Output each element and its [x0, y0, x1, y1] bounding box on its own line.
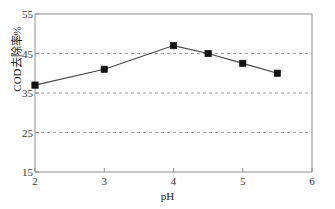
data-series-markers: [32, 42, 281, 88]
data-point-marker: [32, 82, 38, 88]
data-point-marker: [205, 50, 211, 56]
data-point-marker: [170, 42, 176, 48]
grid-lines: [35, 54, 312, 133]
chart-figure: COD去除率% 1525354555 23456 pH: [0, 0, 335, 209]
data-point-marker: [101, 66, 107, 72]
data-point-marker: [240, 60, 246, 66]
plot-area: [0, 0, 335, 209]
data-point-marker: [274, 70, 280, 76]
